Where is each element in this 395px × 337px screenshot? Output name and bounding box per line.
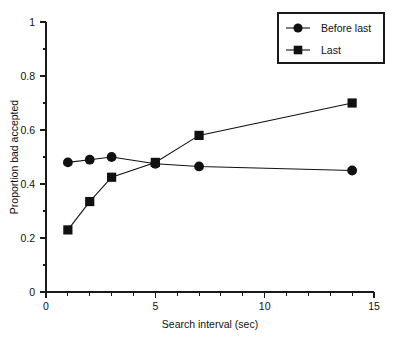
chart-canvas: 00.20.40.60.81 051015 Proportion bad acc…	[0, 0, 395, 337]
data-point-square	[151, 158, 160, 167]
x-tick-label: 10	[259, 300, 271, 312]
legend-label: Before last	[321, 22, 371, 34]
x-axis-title: Search interval (sec)	[162, 318, 258, 330]
data-point-square	[85, 197, 94, 206]
data-series	[63, 98, 357, 234]
y-tick-label: 1	[29, 16, 35, 28]
data-point-square	[348, 98, 357, 107]
x-tick-label: 5	[152, 300, 158, 312]
legend-marker-circle	[293, 23, 302, 32]
x-tick-label: 0	[43, 300, 49, 312]
y-tick-label: 0.8	[20, 70, 35, 82]
data-point-circle	[347, 166, 357, 176]
data-point-square	[63, 225, 72, 234]
legend-label: Last	[321, 44, 341, 56]
chart-figure: 00.20.40.60.81 051015 Proportion bad acc…	[0, 0, 395, 337]
y-tick-label: 0	[29, 286, 35, 298]
y-tick-label: 0.6	[20, 124, 35, 136]
y-axis-title: Proportion bad accepted	[8, 100, 20, 215]
data-point-square	[194, 131, 203, 140]
x-tick-label: 15	[368, 300, 380, 312]
series-circle	[63, 152, 357, 175]
legend-marker-square	[294, 46, 303, 55]
x-axis-ticks: 051015	[43, 292, 380, 312]
y-tick-label: 0.2	[20, 232, 35, 244]
data-point-circle	[194, 162, 204, 172]
data-point-circle	[85, 155, 95, 165]
data-point-square	[107, 173, 116, 182]
chart-legend: Before lastLast	[278, 13, 384, 63]
y-axis-ticks: 00.20.40.60.81	[20, 16, 46, 298]
data-point-circle	[63, 158, 73, 168]
data-point-circle	[107, 152, 117, 162]
y-tick-label: 0.4	[20, 178, 35, 190]
